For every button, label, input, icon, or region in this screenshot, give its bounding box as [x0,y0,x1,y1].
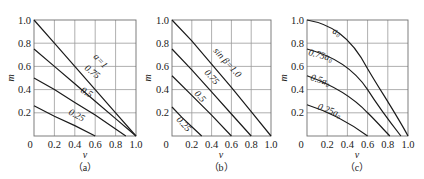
x-tick: 0.8 [381,139,394,150]
curve-b-1.0 [172,20,271,136]
y-tick: 0.8 [18,38,31,49]
chart-panel-b: sin β=1.0 0.75 0.5 0.25 1.0 0.8 0.6 0.4 … [142,15,278,173]
y-tick: 0.6 [291,61,304,72]
x-axis-label: v [83,149,88,160]
curve-label: 0.25 [67,107,87,124]
x-tick: 0.4 [341,139,355,150]
x-tick: 1.0 [129,139,142,150]
x-tick: 0.6 [361,139,374,150]
curve-label: 0.75a₀ [307,47,333,63]
x-tick: 0.6 [225,139,238,150]
y-ticks-a: 1.0 0.8 0.6 0.4 0.2 [18,15,32,118]
x-axis-label: v [219,149,224,160]
curve-label: 0.5a₀ [309,72,331,87]
y-tick: 0.8 [291,38,304,49]
y-ticks-c: 1.0 0.8 0.6 0.4 0.2 [291,15,305,118]
panel-caption: （c） [345,162,369,173]
curves-a [34,20,136,136]
x-tick: 0.4 [205,139,219,150]
y-tick: 0.4 [18,84,32,95]
curve-label: 0.25a₀ [316,101,343,119]
y-tick: 0.4 [291,84,305,95]
curve-label: 0.75 [203,68,222,87]
y-tick: 0.6 [18,61,31,72]
x-tick: 0.2 [48,139,61,150]
curve-label: 0.5 [193,89,209,105]
y-axis-label: m [142,74,153,81]
y-tick: 0.2 [18,107,31,118]
y-tick: 0.6 [156,61,169,72]
y-tick: 0.8 [156,38,169,49]
x-tick: 1.0 [401,139,414,150]
x-tick: 1.0 [264,139,277,150]
x-tick: 0.8 [245,139,258,150]
x-axis-label: v [355,149,360,160]
y-axis-label: m [278,74,289,81]
chart-panel-c: a₀ 0.75a₀ 0.5a₀ 0.25a₀ 1.0 0.8 0.6 0.4 0… [278,15,415,173]
curve-a-0.5 [34,78,126,136]
chart-panel-a: a=1 0.75 0.5 0.25 1.0 0.8 0.6 0.4 0.2 0 … [5,15,143,173]
figure-three-panel-charts: a=1 0.75 0.5 0.25 1.0 0.8 0.6 0.4 0.2 0 … [0,0,424,179]
y-tick: 1.0 [291,15,304,26]
y-tick: 0.4 [156,84,170,95]
curves-b [172,20,271,136]
curve-c-0.75a0 [307,49,401,136]
x-tick: 0 [163,139,168,150]
y-tick: 0.2 [291,107,304,118]
panel-caption: （a） [73,162,97,173]
curve-a-1 [34,20,136,136]
curve-label: 0.25 [175,115,194,134]
y-tick: 0.2 [156,107,169,118]
x-tick: 0.4 [68,139,82,150]
x-tick: 0 [27,139,32,150]
curve-label: 0.5 [79,85,95,100]
y-tick: 1.0 [156,15,169,26]
y-tick: 1.0 [18,15,31,26]
x-tick: 0.2 [185,139,198,150]
x-tick: 0 [298,139,303,150]
x-tick: 0.2 [321,139,334,150]
curve-labels-c: a₀ 0.75a₀ 0.5a₀ 0.25a₀ [307,26,342,120]
curve-label: a₀ [331,26,342,38]
x-tick: 0.6 [89,139,102,150]
y-ticks-b: 1.0 0.8 0.6 0.4 0.2 [156,15,170,118]
curve-a-0.25 [34,106,95,136]
panel-caption: （b） [209,162,234,173]
x-tick: 0.8 [109,139,122,150]
y-axis-label: m [5,74,16,81]
